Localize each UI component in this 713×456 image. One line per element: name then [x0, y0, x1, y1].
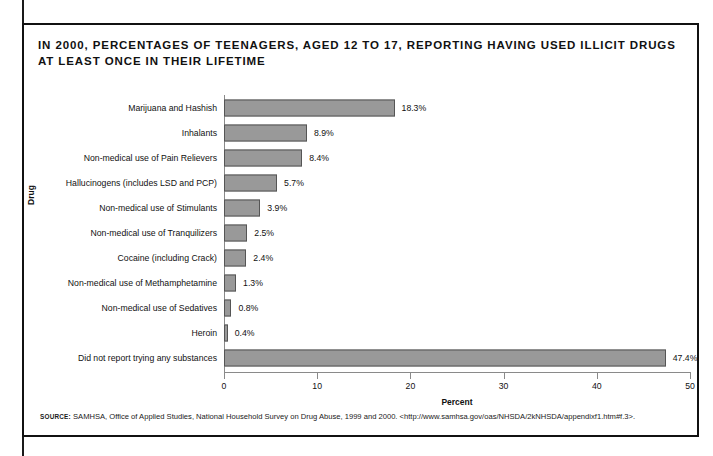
- bar-category-label: Non-medical use of Tranquilizers: [90, 228, 217, 238]
- bar-value-label: 0.8%: [238, 303, 258, 313]
- figure-container: IN 2000, PERCENTAGES OF TEENAGERS, AGED …: [22, 23, 699, 437]
- bar-category-label: Heroin: [191, 328, 217, 338]
- x-tick-label: 40: [592, 381, 602, 391]
- bar-category-label: Non-medical use of Sedatives: [102, 303, 217, 313]
- bar-row: Did not report trying any substances47.4…: [224, 346, 690, 371]
- bar-value-label: 2.5%: [254, 228, 274, 238]
- bar-category-label: Non-medical use of Pain Relievers: [84, 153, 217, 163]
- source-note: SOURCE: SAMHSA, Office of Applied Studie…: [40, 411, 690, 422]
- bar-value-label: 3.9%: [267, 203, 287, 213]
- bar-row: Non-medical use of Methamphetamine1.3%: [224, 271, 690, 296]
- source-text: SAMHSA, Office of Applied Studies, Natio…: [73, 412, 635, 421]
- x-tick-label: 20: [406, 381, 416, 391]
- bar-value-label: 5.7%: [284, 178, 304, 188]
- bar-row: Non-medical use of Tranquilizers2.5%: [224, 220, 690, 245]
- x-tick: [410, 373, 411, 379]
- bar-category-label: Marijuana and Hashish: [128, 103, 217, 113]
- x-tick: [317, 373, 318, 379]
- bar-category-label: Non-medical use of Stimulants: [99, 203, 217, 213]
- source-label: SOURCE:: [40, 413, 71, 420]
- bar-row: Cocaine (including Crack)2.4%: [224, 246, 690, 271]
- bar-category-label: Cocaine (including Crack): [118, 253, 217, 263]
- x-tick: [597, 373, 598, 379]
- bar-category-label: Did not report trying any substances: [78, 353, 217, 363]
- bar-value-label: 1.3%: [243, 278, 263, 288]
- bar-value-label: 8.4%: [309, 153, 329, 163]
- bar: [224, 275, 236, 292]
- y-axis-title: Drug: [26, 185, 36, 205]
- bar-row: Non-medical use of Pain Relievers8.4%: [224, 145, 690, 170]
- bar: [224, 99, 395, 116]
- bar-value-label: 8.9%: [314, 128, 334, 138]
- bar: [224, 250, 246, 267]
- bar: [224, 174, 277, 191]
- bar-category-label: Non-medical use of Methamphetamine: [68, 278, 217, 288]
- x-tick-label: 30: [499, 381, 509, 391]
- x-axis-line: [224, 372, 691, 373]
- bar-row: Marijuana and Hashish18.3%: [224, 95, 690, 120]
- bar-row: Heroin0.4%: [224, 321, 690, 346]
- x-tick-label: 10: [312, 381, 322, 391]
- bar-chart: Drug Marijuana and Hashish18.3%Inhalants…: [24, 25, 701, 439]
- bar-row: Inhalants8.9%: [224, 120, 690, 145]
- bar-value-label: 18.3%: [402, 103, 427, 113]
- x-axis-title: Percent: [441, 397, 472, 407]
- x-tick: [224, 373, 225, 379]
- x-tick: [504, 373, 505, 379]
- bar: [224, 300, 231, 317]
- bar-value-label: 47.4%: [673, 353, 698, 363]
- bar-value-label: 2.4%: [253, 253, 273, 263]
- bar: [224, 224, 247, 241]
- bar-category-label: Hallucinogens (includes LSD and PCP): [66, 178, 217, 188]
- bar: [224, 199, 260, 216]
- bar-row: Hallucinogens (includes LSD and PCP)5.7%: [224, 170, 690, 195]
- bar: [224, 124, 307, 141]
- bar-row: Non-medical use of Stimulants3.9%: [224, 195, 690, 220]
- plot-area: Marijuana and Hashish18.3%Inhalants8.9%N…: [224, 95, 690, 371]
- bar: [224, 350, 666, 367]
- bar: [224, 149, 302, 166]
- x-tick-label: 50: [685, 381, 695, 391]
- bar-value-label: 0.4%: [235, 328, 255, 338]
- bar-row: Non-medical use of Sedatives0.8%: [224, 296, 690, 321]
- bar-category-label: Inhalants: [182, 128, 217, 138]
- bar: [224, 325, 228, 342]
- x-tick-label: 0: [222, 381, 227, 391]
- x-tick: [690, 373, 691, 379]
